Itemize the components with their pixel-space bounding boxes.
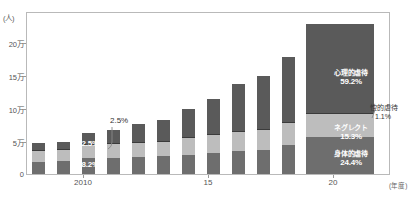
- label-2010-psychological: 26.7%: [62, 122, 114, 131]
- y-tick-mark: [23, 43, 26, 44]
- y-tick-mark: [23, 109, 26, 110]
- bar-segment-negl: [232, 132, 245, 151]
- label-2020-neglect: ネグレクト 15.3%: [318, 124, 384, 141]
- leader-line-2020-sexual: [358, 104, 380, 126]
- y-tick-label-15man: 15万: [9, 71, 24, 82]
- y-axis: 20万 15万 10万 5万 0: [0, 0, 24, 201]
- bar-segment-phys: [207, 153, 220, 174]
- y-tick-label-0: 0: [20, 170, 24, 179]
- bar-segment-psy: [182, 109, 195, 137]
- y-tick-mark: [23, 142, 26, 143]
- bar-2014: [182, 109, 195, 174]
- bar-segment-phys: [157, 156, 170, 174]
- bar-2017: [257, 76, 270, 174]
- bar-2018: [282, 57, 295, 174]
- bar-segment-phys: [182, 155, 195, 174]
- label-2020-neglect-pct: 15.3%: [318, 132, 384, 141]
- bar-2008: [32, 143, 45, 174]
- leader-line-2010-sexual: [108, 126, 138, 152]
- bar-segment-negl: [32, 151, 45, 163]
- bar-segment-phys: [132, 157, 145, 174]
- bar-segment-negl: [157, 142, 170, 156]
- label-2020-physical-pct: 24.4%: [318, 158, 384, 167]
- bar-segment-negl: [207, 135, 220, 153]
- bar-segment-psy: [257, 76, 270, 129]
- label-2020-psychological-name: 心理的虐待: [318, 69, 384, 77]
- label-2020-psychological: 心理的虐待 59.2%: [318, 69, 384, 86]
- label-2010-sexual: 2.5%: [110, 116, 128, 125]
- x-axis-unit-label: (年度): [389, 180, 407, 190]
- label-2010-neglect: 32.5%: [62, 139, 114, 148]
- bar-segment-psy: [232, 84, 245, 130]
- bar-segment-negl: [182, 138, 195, 154]
- y-tick-mark: [23, 76, 26, 77]
- x-tick-label-2010: 2010: [74, 178, 92, 187]
- label-2020-psychological-pct: 59.2%: [318, 77, 384, 86]
- y-tick-label-20man: 20万: [9, 38, 24, 49]
- bar-segment-psy: [32, 143, 45, 150]
- bar-2013: [157, 120, 170, 174]
- bar-segment-negl: [282, 123, 295, 144]
- bar-segment-phys: [232, 151, 245, 174]
- bar-segment-phys: [32, 162, 45, 174]
- x-tick-label-20: 20: [329, 178, 338, 187]
- bar-segment-negl: [257, 130, 270, 150]
- bar-2016: [232, 84, 245, 174]
- y-tick-label-10man: 10万: [9, 104, 24, 115]
- bar-segment-phys: [282, 145, 295, 174]
- label-2020-physical: 身体的虐待 24.4%: [318, 150, 384, 167]
- bar-segment-psy: [157, 120, 170, 141]
- bar-segment-psy: [207, 99, 220, 135]
- bar-segment-phys: [257, 150, 270, 174]
- bar-segment-psy: [282, 57, 295, 122]
- label-2010-physical: 38.2%: [62, 160, 114, 169]
- chart-root: (人) 20万 15万 10万 5万 0 2010 15 20 (年度) 26.…: [0, 0, 417, 201]
- label-2020-physical-name: 身体的虐待: [318, 150, 384, 158]
- x-tick-label-15: 15: [204, 178, 213, 187]
- bar-2015: [207, 98, 220, 174]
